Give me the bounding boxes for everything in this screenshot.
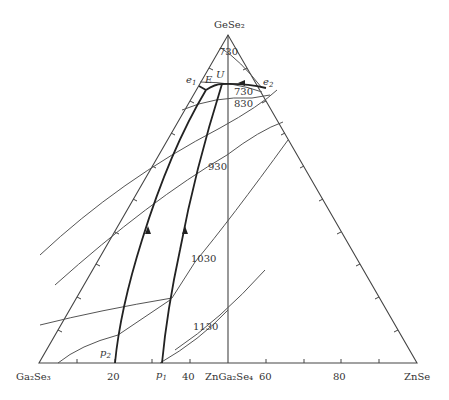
point-p1-label: p1 — [156, 369, 167, 382]
point-E-label: E — [204, 74, 213, 85]
tick-label-20: 20 — [107, 371, 120, 382]
isotherm-label-1030: 1030 — [191, 253, 216, 264]
cotectic-e1-E — [199, 86, 206, 90]
point-U-label: U — [216, 69, 225, 80]
isotherm-label-830: 830 — [234, 98, 253, 109]
vertex-top-label: GeSe₂ — [214, 19, 245, 30]
point-p2-label: p2 — [100, 347, 111, 360]
isotherm-1130 — [58, 300, 170, 363]
isotherm-label-730-top: 730 — [219, 46, 238, 57]
isotherm-label-930: 930 — [208, 161, 227, 172]
cotectic-lines — [115, 80, 266, 363]
point-e1-label: e1 — [186, 74, 196, 87]
arrow-icon — [182, 226, 188, 234]
isotherm-label-1130: 1130 — [193, 321, 218, 332]
compound-label: ZnGa₂Se₄ — [205, 371, 253, 382]
isotherm-930b — [55, 122, 283, 285]
isotherm-label-730-e2: 730 — [234, 86, 253, 97]
isotherm-1130b — [175, 270, 265, 350]
vertex-left-label: Ga₂Se₃ — [16, 371, 51, 382]
right-edge-ticks — [243, 68, 398, 332]
vertex-right-label: ZnSe — [404, 371, 430, 382]
isotherm-930 — [40, 90, 277, 255]
tick-label-40: 40 — [182, 371, 195, 382]
tick-label-60: 60 — [259, 371, 272, 382]
tick-label-80: 80 — [333, 371, 346, 382]
ternary-phase-diagram: GeSe₂ Ga₂Se₃ ZnSe 20 40 ZnGa₂Se₄ 60 80 e… — [0, 0, 449, 400]
